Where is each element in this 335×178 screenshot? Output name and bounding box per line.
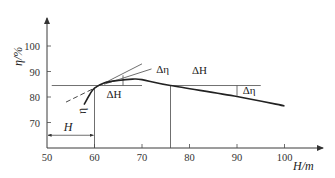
x-tick-label: 50 xyxy=(42,152,53,163)
x-tick-label: 80 xyxy=(184,152,195,163)
guides xyxy=(48,64,261,148)
delta-eta-label-right: Δη xyxy=(243,84,256,96)
y-axis-label: η/% xyxy=(11,47,25,66)
x-tick-label: 90 xyxy=(232,152,243,163)
eta-curve-label: η xyxy=(74,107,89,115)
y-tick-label: 100 xyxy=(24,41,40,52)
x-tick-label: 60 xyxy=(89,152,100,163)
efficiency-head-diagram: 5060708090100 708090100 η/% H/m Δη ΔH ΔH… xyxy=(0,0,335,178)
delta-h-label-left: ΔH xyxy=(106,88,121,100)
y-tick-label: 70 xyxy=(30,118,41,129)
x-tick-label: 100 xyxy=(277,152,293,163)
delta-h-label-right: ΔH xyxy=(192,64,207,76)
y-tick-label: 90 xyxy=(30,67,41,78)
x-tick-label: 70 xyxy=(137,152,148,163)
h-dimension-label: H xyxy=(63,120,74,134)
axes xyxy=(47,18,323,148)
x-axis-label: H/m xyxy=(292,159,314,173)
y-tick-label: 80 xyxy=(30,92,41,103)
delta-eta-label-left: Δη xyxy=(156,63,169,75)
x-ticks: 5060708090100 xyxy=(42,144,293,163)
